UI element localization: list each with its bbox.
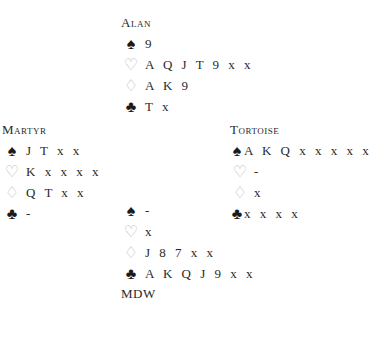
heart-icon: ♡: [230, 161, 250, 182]
clubs-cards: T x: [141, 96, 171, 117]
diamond-icon: ♢: [2, 182, 22, 203]
player-name-north: Alan: [121, 13, 254, 33]
player-name-south: MDW: [121, 284, 256, 304]
spade-icon: ♠: [2, 140, 22, 161]
club-icon: ♣: [121, 96, 141, 117]
hearts-cards: K x x x x: [22, 161, 101, 182]
north-hand: Alan ♠9 ♡A Q J T 9 x x ♢A K 9 ♣T x: [121, 13, 254, 117]
diamonds-cards: A K 9: [141, 75, 191, 96]
clubs-row: ♣T x: [121, 96, 254, 117]
diamond-icon: ♢: [121, 242, 141, 263]
spade-icon: ♠: [230, 140, 244, 161]
diamonds-cards: Q T x x: [22, 182, 87, 203]
heart-icon: ♡: [121, 221, 141, 242]
spades-cards: -: [141, 200, 152, 221]
spades-cards: J T x x: [22, 140, 82, 161]
heart-icon: ♡: [121, 54, 141, 75]
spades-row: ♠9: [121, 33, 254, 54]
diamond-icon: ♢: [121, 75, 141, 96]
player-name-east: Tortoise: [230, 120, 370, 140]
spade-icon: ♠: [121, 200, 141, 221]
west-hand: Martyr ♠J T x x ♡K x x x x ♢Q T x x ♣-: [2, 120, 101, 224]
hearts-cards: -: [250, 161, 261, 182]
club-icon: ♣: [121, 263, 141, 284]
clubs-row: ♣A K Q J 9 x x: [121, 263, 256, 284]
spades-cards: 9: [141, 33, 155, 54]
clubs-row: ♣-: [2, 203, 101, 224]
diamonds-cards: J 8 7 x x: [141, 242, 216, 263]
spade-icon: ♠: [121, 33, 141, 54]
south-hand: ♠- ♡x ♢J 8 7 x x ♣A K Q J 9 x x MDW: [121, 200, 256, 304]
diamonds-row: ♢A K 9: [121, 75, 254, 96]
diamonds-row: ♢Q T x x: [2, 182, 101, 203]
hearts-cards: x: [141, 221, 155, 242]
club-icon: ♣: [2, 203, 22, 224]
spades-row: ♠A K Q x x x x x: [230, 140, 370, 161]
hearts-row: ♡K x x x x: [2, 161, 101, 182]
heart-icon: ♡: [2, 161, 22, 182]
hearts-row: ♡x: [121, 221, 256, 242]
spades-row: ♠-: [121, 200, 256, 221]
clubs-cards: A K Q J 9 x x: [141, 263, 256, 284]
diamonds-row: ♢J 8 7 x x: [121, 242, 256, 263]
hearts-cards: A Q J T 9 x x: [141, 54, 254, 75]
player-name-west: Martyr: [2, 120, 101, 140]
hearts-row: ♡-: [230, 161, 370, 182]
spades-row: ♠J T x x: [2, 140, 101, 161]
clubs-cards: -: [22, 203, 33, 224]
hearts-row: ♡A Q J T 9 x x: [121, 54, 254, 75]
spades-cards: A K Q x x x x x: [244, 140, 370, 161]
